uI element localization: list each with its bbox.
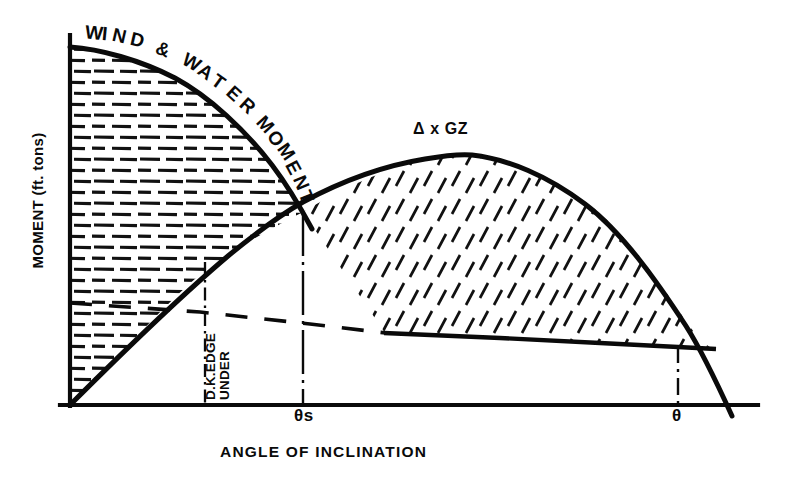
stability-curve-figure: MOMENT (ft. tons) ANGLE OF INCLINATION θ… bbox=[0, 0, 794, 492]
deck-edge-under-label-line1: D.K.EDGE bbox=[203, 333, 218, 400]
x-axis-title: ANGLE OF INCLINATION bbox=[220, 443, 427, 461]
theta-label: θ bbox=[672, 406, 682, 426]
y-axis-title: MOMENT (ft. tons) bbox=[29, 101, 46, 301]
theta-s-label: θs bbox=[294, 406, 314, 426]
delta-gz-label: Δ x GZ bbox=[413, 120, 468, 138]
deck-edge-under-label-line2: UNDER bbox=[217, 351, 232, 400]
